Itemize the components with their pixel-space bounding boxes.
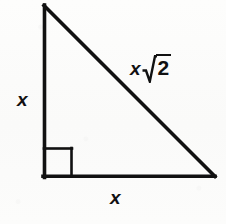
geometry-figure: x x x 2 <box>0 0 226 224</box>
triangle-outline <box>43 5 215 178</box>
radical-sign-icon <box>142 54 157 83</box>
radical-expression: 2 <box>142 54 172 83</box>
label-vertical-leg: x <box>17 90 28 109</box>
right-angle-square-icon <box>44 148 72 176</box>
radicand-value: 2 <box>156 54 172 83</box>
label-hypotenuse: x 2 <box>130 54 171 83</box>
triangle-hypotenuse <box>44 6 215 177</box>
hypotenuse-variable: x <box>130 59 141 78</box>
label-horizontal-leg: x <box>110 188 121 207</box>
